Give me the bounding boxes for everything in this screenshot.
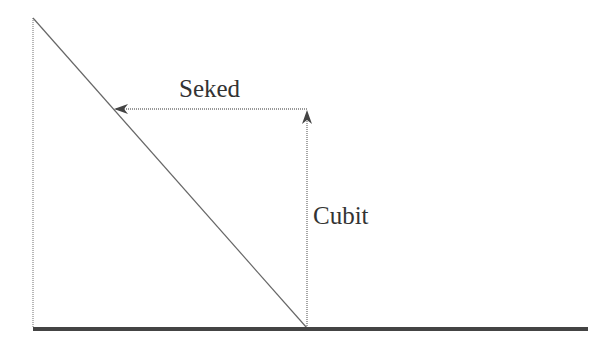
seked-label: Seked (179, 76, 240, 101)
cubit-label: Cubit (313, 203, 369, 228)
slope-line (33, 18, 307, 328)
diagram-canvas (0, 0, 615, 349)
ground-baseline (33, 327, 588, 331)
seked-diagram: Seked Cubit (0, 0, 615, 349)
